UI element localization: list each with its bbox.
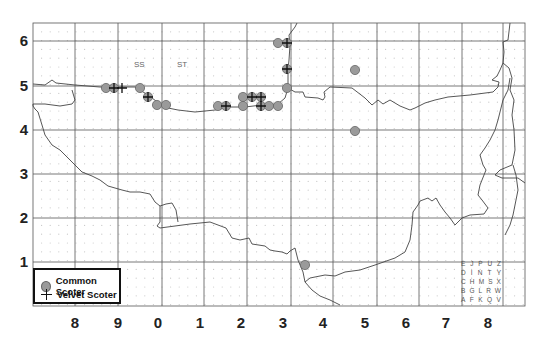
- tetrad-letter: H: [470, 277, 475, 286]
- tetrad-letter: Y: [497, 268, 501, 277]
- tetrad-row: A F K Q V: [461, 295, 501, 304]
- tetrad-letter: Z: [497, 259, 501, 268]
- y-axis-label-5: 5: [8, 77, 28, 94]
- county-boundary-line: [33, 23, 525, 305]
- x-axis-label-8: 8: [65, 314, 85, 331]
- tetrad-letter: F: [470, 295, 474, 304]
- 10km-grid-lines: [33, 23, 525, 306]
- tetrad-letter: X: [497, 277, 501, 286]
- tetrad-letter: K: [478, 295, 482, 304]
- tetrad-letter-key: E J P U Z D I N T Y C H M S X B G L R W …: [461, 259, 501, 304]
- tetrad-letter: U: [487, 259, 492, 268]
- x-axis-label-0: 0: [148, 314, 168, 331]
- x-axis-label-7: 7: [436, 314, 456, 331]
- tetrad-letter: D: [461, 268, 466, 277]
- tetrad-letter: P: [478, 259, 482, 268]
- y-axis-label-3: 3: [8, 165, 28, 182]
- legend-label: Velvet Scoter: [57, 289, 117, 300]
- x-axis-label-8-east: 8: [478, 314, 498, 331]
- grid-square-label-st: ST: [177, 60, 187, 69]
- common-scoter-marker: [350, 126, 359, 135]
- y-axis-label-4: 4: [8, 121, 28, 138]
- tetrad-letter: E: [461, 259, 465, 268]
- x-axis-label-4: 4: [313, 314, 333, 331]
- x-axis-label-5: 5: [355, 314, 375, 331]
- tetrad-letter: J: [470, 259, 473, 268]
- map-legend: Common Scoter Velvet Scoter: [33, 268, 121, 304]
- tetrad-row: D I N T Y: [461, 268, 501, 277]
- tetrad-row: B G L R W: [461, 286, 501, 295]
- common-scoter-marker: [135, 83, 144, 92]
- tetrad-row: E J P U Z: [461, 259, 501, 268]
- y-axis-label-1: 1: [8, 253, 28, 270]
- tetrad-letter: B: [461, 286, 465, 295]
- common-scoter-marker: [282, 83, 291, 92]
- y-axis-label-2: 2: [8, 209, 28, 226]
- common-scoter-marker: [300, 260, 309, 269]
- tetrad-letter: N: [478, 268, 483, 277]
- common-scoter-marker: [238, 92, 247, 101]
- tetrad-letter: S: [488, 277, 492, 286]
- x-axis-label-2: 2: [231, 314, 251, 331]
- x-axis-label-6: 6: [396, 314, 416, 331]
- x-axis-label-9: 9: [108, 314, 128, 331]
- x-axis-label-1: 1: [190, 314, 210, 331]
- tetrad-dot-grid: [41, 31, 524, 305]
- common-scoter-marker: [238, 101, 247, 110]
- cross-icon: [41, 289, 52, 300]
- common-scoter-marker: [350, 65, 359, 74]
- common-scoter-marker: [273, 38, 282, 47]
- tetrad-letter: I: [471, 268, 473, 277]
- tetrad-letter: C: [461, 277, 466, 286]
- tetrad-letter: R: [486, 286, 491, 295]
- tetrad-letter: V: [497, 295, 501, 304]
- legend-item-velvet-scoter: Velvet Scoter: [41, 289, 117, 300]
- tetrad-letter: T: [488, 268, 492, 277]
- common-scoter-marker: [161, 100, 170, 109]
- y-axis-label-6: 6: [8, 32, 28, 49]
- tetrad-letter: G: [469, 286, 474, 295]
- tetrad-row: C H M S X: [461, 277, 501, 286]
- common-scoter-marker: [152, 100, 161, 109]
- x-axis-label-3: 3: [273, 314, 293, 331]
- common-scoter-marker: [273, 101, 282, 110]
- tetrad-letter: W: [495, 286, 501, 295]
- tetrad-letter: L: [478, 286, 482, 295]
- tetrad-letter: A: [461, 295, 465, 304]
- tetrad-letter: M: [479, 277, 484, 286]
- grid-square-label-ss: SS: [134, 60, 145, 69]
- tetrad-letter: Q: [487, 295, 492, 304]
